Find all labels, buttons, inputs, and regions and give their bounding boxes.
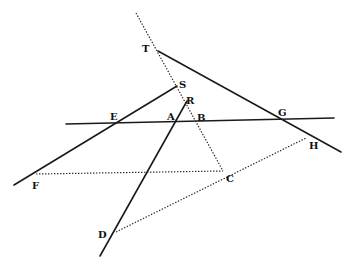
solid-lines [14, 51, 341, 256]
point-labels: T S R A B E G H F C D [32, 43, 318, 240]
geometric-diagram: T S R A B E G H F C D [0, 0, 348, 264]
line-FS [14, 86, 177, 185]
dotted-lines [36, 13, 306, 232]
label-A: A [166, 111, 175, 122]
label-B: B [197, 112, 205, 123]
label-E: E [110, 111, 118, 122]
label-G: G [278, 107, 287, 118]
label-H: H [309, 140, 318, 151]
label-R: R [186, 95, 195, 106]
label-D: D [98, 229, 107, 240]
label-C: C [226, 173, 234, 184]
label-S: S [179, 79, 186, 90]
line-FC [36, 171, 223, 174]
label-T: T [142, 43, 150, 54]
line-DH [116, 138, 306, 232]
line-top-to-C [136, 13, 223, 171]
label-F: F [32, 180, 39, 191]
